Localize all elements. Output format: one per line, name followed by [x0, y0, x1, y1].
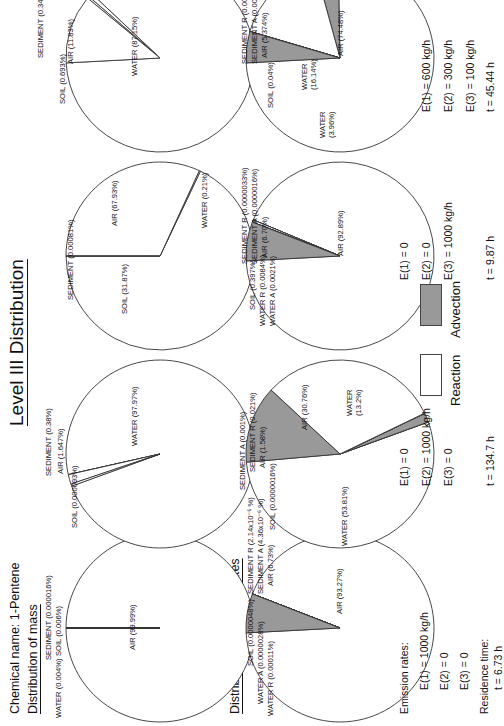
rpie3-label-sed-a: SEDIMENT A (0.0000016%)	[250, 169, 259, 264]
pie2-label-sediment: SEDIMENT (0.38%)	[44, 408, 53, 476]
legend-advection-label: Advection	[448, 281, 463, 338]
s4-e3: E(3) = 100 kg/h	[464, 40, 476, 112]
pie4-label-water: WATER (87.15%)	[130, 17, 139, 77]
rpie2-label-water-r: WATER (53.81%)	[340, 487, 349, 547]
rpie4-label-water-r: WATER (16.14%)	[300, 50, 318, 90]
s3-e2: E(2) = 0	[420, 242, 432, 280]
pie-mass-3	[66, 162, 254, 350]
rpie3-label-soil: SOIL (0.397%)	[248, 260, 257, 310]
s3-e1: E(1) = 0	[398, 242, 410, 280]
rpie2-label-air-a: AIR (1.58%)	[258, 427, 267, 468]
pie1-label-water: WATER (0.004%)	[54, 659, 63, 719]
s4-e2: E(2) = 300 kg/h	[442, 40, 454, 112]
rpie3-label-water-a: WATER A (0.0021%)	[268, 256, 277, 326]
rpie1-label-soil: SOIL (0.0000048%)	[246, 599, 255, 666]
legend-reaction-label: Reaction	[448, 355, 463, 406]
s3-residence: t = 9.87 h	[484, 236, 496, 280]
s1-e2: E(2) = 0	[438, 652, 450, 690]
emission-rates-label: Emission rates:	[398, 642, 410, 714]
pie4-label-air: AIR (11.83%)	[66, 19, 75, 64]
pie3-label-soil: SOIL (31.87%)	[120, 264, 129, 314]
rpie1-label-water-a: WATER A (0.0000028%)	[256, 621, 265, 704]
rpie4-label-water-a: WATER (3.96%)	[318, 104, 336, 138]
s2-e1: E(1) = 0	[398, 448, 410, 486]
s1-e1: E(1) = 1000 kg/h	[418, 612, 430, 690]
rpie3-label-sed-r: SEDIMENT R (0.0000033%)	[240, 167, 249, 264]
legend-reaction-swatch	[420, 354, 442, 396]
pie-mass-1	[66, 534, 254, 722]
pie2-label-water: WATER (97.97%)	[130, 387, 139, 447]
s3-e3: E(3) = 1000 kg/h	[442, 202, 454, 280]
s2-residence: t = 134.7 h	[484, 436, 496, 486]
rpie2-label-sed-r: SEDIMENT R (0.021%)	[248, 392, 257, 472]
pie4-label-sediment: SEDIMENT (0.34%)	[36, 0, 45, 58]
rpie2-label-sed-a: SEDIMENT A (0.001%)	[238, 412, 247, 490]
rpie1-label-water-r: WATER R (0.00011%)	[266, 641, 275, 716]
rpie1-label-air-r: AIR (93.27%)	[335, 568, 344, 614]
rpie4-label-sed-r: SEDIMENT R (0.0063%)	[240, 0, 249, 64]
rpie1-label-sed-a: SEDIMENT A (4.36x10⁻⁶ %)	[256, 498, 265, 594]
rpie4-label-air-r: AIR (74.48%)	[336, 10, 345, 56]
pie3-label-water: WATER (0.21%)	[200, 173, 209, 228]
s1-e3: E(3) = 0	[458, 652, 470, 690]
rpie3-label-air-r: AIR (92.89%)	[336, 210, 345, 256]
residence-time-label: Residence time:	[478, 639, 490, 714]
pie1-label-air: AIR (99.99%)	[128, 604, 137, 650]
s1-residence: t = 6.73 h	[492, 646, 504, 690]
pie3-label-sediment: SEDIMENT (0.00081%)	[66, 220, 75, 300]
rpie1-label-sed-r: SEDIMENT R (2.14x10⁻⁶ %)	[246, 497, 255, 594]
legend-advection-swatch	[420, 284, 442, 326]
s2-e3: E(3) = 0	[442, 448, 454, 486]
s4-e1: E(1) = 600 kg/h	[420, 40, 432, 112]
rpie1-label-air-a: AIR (6.73%)	[266, 545, 275, 586]
pie2-label-air: AIR (1.647%)	[56, 428, 65, 474]
rpie3-label-water-r: WATER R (0.0084%)	[258, 255, 267, 326]
pie-mass-2	[66, 360, 254, 548]
rpie2-label-air-r: AIR (30.76%)	[300, 384, 309, 430]
rpie2-label-water-a: WATER (13.2%)	[345, 368, 363, 416]
s4-residence: t = 45.44 h	[484, 62, 496, 112]
pie1-label-sediment: SEDIMENT (0.000016%)	[44, 575, 53, 660]
rpie4-label-sed-a: SEDIMENT A (0.00031%)	[250, 0, 259, 64]
pie2-label-soil: SOIL (0.000093%)	[70, 465, 79, 528]
pie1-label-soil: SOIL (0.006%)	[54, 606, 63, 656]
rpie3-label-air-a: AIR (6.70%)	[260, 217, 269, 258]
rpie2-label-soil: SOIL (0.0000016%)	[268, 463, 277, 530]
pie3-label-air: AIR (67.93%)	[110, 180, 119, 226]
s2-e2: E(2) = 1000 kg/h	[420, 408, 432, 486]
pie-mass-4	[66, 0, 254, 152]
rpie4-label-air-a: AIR (5.374%)	[260, 12, 269, 58]
rpie4-label-soil: SOIL (0.04%)	[266, 62, 275, 108]
